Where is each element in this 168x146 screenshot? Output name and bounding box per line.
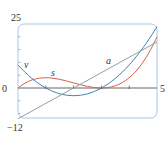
curves <box>18 27 157 119</box>
curve-label-a: a <box>106 55 111 66</box>
y-tick-label-zero: 0 <box>2 83 7 94</box>
curve-v <box>18 27 157 96</box>
y-tick-label-top: 25 <box>11 12 21 23</box>
chart: 25 0 −12 5 v s a <box>0 0 168 146</box>
y-tick-label-bottom: −12 <box>7 122 23 133</box>
curve-label-s: s <box>51 67 55 78</box>
x-tick-label-max: 5 <box>160 83 165 94</box>
curve-a <box>18 42 157 119</box>
curve-label-v: v <box>24 59 29 70</box>
